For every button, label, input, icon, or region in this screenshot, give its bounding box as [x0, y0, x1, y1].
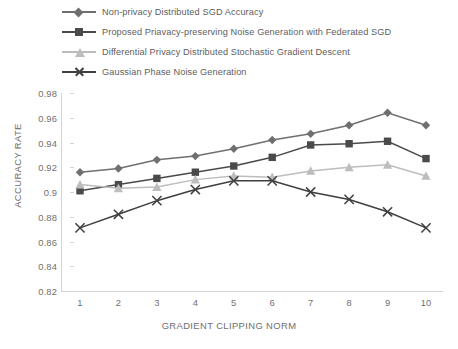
legend-item[interactable]: Non-privacy Distributed SGD Accuracy — [62, 2, 454, 22]
legend-item-label: Differential Privacy Distributed Stochas… — [102, 47, 350, 58]
data-point-marker — [422, 155, 429, 162]
x-axis-tick-label: 3 — [142, 297, 172, 308]
series-x — [75, 176, 430, 232]
legend-item-label: Proposed Priavacy-preserving Noise Gener… — [102, 27, 391, 38]
y-axis-tick-label: 0.9 — [17, 187, 57, 198]
data-point-marker — [307, 141, 314, 148]
y-axis-title: ACCURACY RATE — [12, 111, 23, 221]
data-point-marker — [191, 152, 199, 160]
data-point-marker — [306, 130, 314, 138]
data-point-marker — [230, 162, 237, 169]
data-point-marker — [75, 223, 84, 232]
chart-figure: Non-privacy Distributed SGD AccuracyProp… — [0, 0, 458, 349]
data-point-marker — [345, 121, 353, 129]
legend-triangle-icon — [62, 45, 96, 59]
data-point-marker — [268, 136, 276, 144]
x-axis-tick-labels: 12345678910 — [62, 297, 442, 311]
data-point-marker — [153, 175, 160, 182]
legend-item[interactable]: Differential Privacy Distributed Stochas… — [62, 42, 454, 62]
x-axis-tick-label: 5 — [219, 297, 249, 308]
y-axis-tick-label: 0.84 — [17, 261, 57, 272]
x-axis-tick-label: 6 — [257, 297, 287, 308]
data-point-marker — [114, 164, 122, 172]
series-triangle — [75, 160, 430, 192]
x-axis-tick-label: 1 — [65, 297, 95, 308]
x-axis-title: GRADIENT CLIPPING NORM — [0, 320, 458, 331]
chart-legend: Non-privacy Distributed SGD AccuracyProp… — [62, 2, 454, 82]
y-axis-tick-label: 0.86 — [17, 236, 57, 247]
series-line — [80, 165, 426, 189]
data-point-marker — [345, 140, 352, 147]
legend-diamond-icon — [62, 5, 96, 19]
y-axis-tick-label: 0.88 — [17, 211, 57, 222]
x-axis-tick-label: 2 — [103, 297, 133, 308]
plot-area — [62, 93, 442, 291]
legend-item-label: Non-privacy Distributed SGD Accuracy — [102, 7, 263, 18]
data-point-marker — [153, 156, 161, 164]
data-point-marker — [230, 144, 238, 152]
data-point-marker — [269, 154, 276, 161]
data-point-marker — [421, 223, 430, 232]
x-axis-line — [61, 291, 443, 292]
y-axis-tick-label: 0.94 — [17, 137, 57, 148]
data-point-marker — [114, 210, 123, 219]
data-point-marker — [152, 196, 161, 205]
x-axis-tick-label: 9 — [373, 297, 403, 308]
series-container — [62, 93, 442, 291]
legend-item-label: Gaussian Phase Noise Generation — [102, 67, 247, 78]
legend-item[interactable]: Gaussian Phase Noise Generation — [62, 62, 454, 82]
y-axis-tick-label: 0.92 — [17, 162, 57, 173]
x-axis-tick-label: 7 — [296, 297, 326, 308]
x-axis-tick-label: 8 — [334, 297, 364, 308]
y-axis-tick-label: 0.96 — [17, 112, 57, 123]
data-point-marker — [192, 169, 199, 176]
x-axis-tick-label: 4 — [180, 297, 210, 308]
y-axis-tick-label: 0.98 — [17, 88, 57, 99]
y-axis-tick-label: 0.82 — [17, 286, 57, 297]
data-point-marker — [384, 138, 391, 145]
y-axis-tick-mark — [70, 291, 74, 292]
x-axis-tick-label: 10 — [411, 297, 441, 308]
legend-item[interactable]: Proposed Priavacy-preserving Noise Gener… — [62, 22, 454, 42]
data-point-marker — [383, 109, 391, 117]
legend-x-icon — [62, 65, 96, 79]
data-point-marker — [76, 168, 84, 176]
legend-square-icon — [62, 25, 96, 39]
data-point-marker — [422, 121, 430, 129]
data-point-marker — [383, 207, 392, 216]
